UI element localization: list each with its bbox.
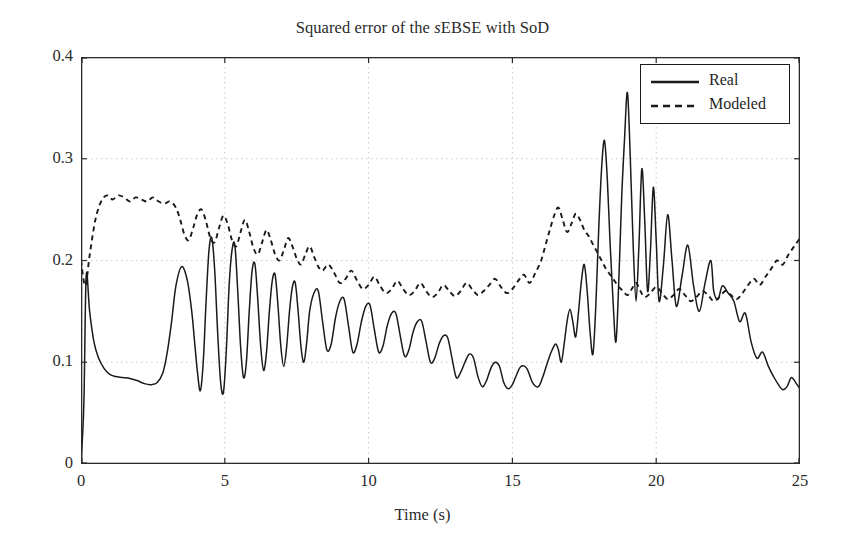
series-layer bbox=[81, 92, 800, 464]
series-line-real bbox=[81, 92, 800, 464]
legend-item-real: Real bbox=[649, 70, 785, 94]
y-tick-label: 0.4 bbox=[29, 46, 73, 66]
chart-title-suffix: EBSE with SoD bbox=[441, 18, 550, 37]
x-tick-label: 5 bbox=[195, 471, 255, 491]
x-axis-label: Time (s) bbox=[0, 505, 845, 525]
x-tick-label: 10 bbox=[339, 471, 399, 491]
legend-label-modeled: Modeled bbox=[709, 95, 766, 113]
x-tick-label: 15 bbox=[482, 471, 542, 491]
legend-swatch-dashed-icon bbox=[649, 94, 701, 118]
legend-item-modeled: Modeled bbox=[649, 94, 785, 118]
chart-figure: Squared error of the sEBSE with SoD 00.1… bbox=[0, 0, 845, 556]
x-tick-label: 0 bbox=[51, 471, 111, 491]
chart-title: Squared error of the sEBSE with SoD bbox=[0, 18, 845, 38]
legend: Real Modeled bbox=[640, 64, 790, 124]
y-tick-label: 0.2 bbox=[29, 250, 73, 270]
x-tick-label: 20 bbox=[626, 471, 686, 491]
legend-swatch-solid-icon bbox=[649, 70, 701, 94]
chart-title-prefix: Squared error of the bbox=[296, 18, 435, 37]
y-tick-label: 0.1 bbox=[29, 351, 73, 371]
x-tick-label: 25 bbox=[770, 471, 830, 491]
legend-label-real: Real bbox=[709, 71, 738, 89]
y-tick-label: 0.3 bbox=[29, 148, 73, 168]
y-tick-label: 0 bbox=[29, 453, 73, 473]
